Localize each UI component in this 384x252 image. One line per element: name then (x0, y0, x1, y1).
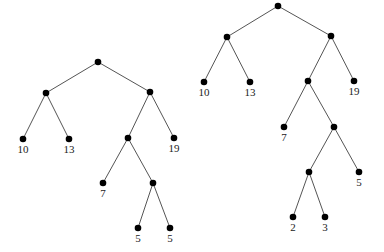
tree-left-edge (98, 62, 150, 92)
tree-right-node-label: 7 (281, 131, 287, 143)
tree-left-node (167, 225, 174, 232)
tree-right-edge (204, 37, 227, 82)
tree-right-node (305, 78, 312, 85)
tree-left-edge (46, 62, 98, 93)
tree-right-edge (227, 37, 250, 82)
tree-left-node (150, 180, 157, 187)
tree-right-node (328, 33, 335, 40)
tree-left-edge (128, 138, 153, 183)
tree-left-node (43, 90, 50, 97)
tree-left-node-label: 13 (64, 143, 76, 155)
tree-left-edge (138, 183, 153, 228)
tree-right-node (290, 214, 297, 221)
tree-left-node (20, 136, 27, 143)
tree-right-edge (278, 6, 331, 36)
tree-left-node-label: 5 (167, 232, 173, 244)
tree-right-edge (227, 6, 278, 37)
tree-left-node-label: 10 (18, 143, 30, 155)
tree-right-edge (308, 36, 331, 81)
tree-right-edge (293, 172, 309, 217)
tree-right-edge (334, 127, 359, 172)
tree-edges (23, 6, 359, 228)
tree-left-edge (103, 138, 128, 183)
tree-left-node (100, 180, 107, 187)
tree-left-node-label: 5 (135, 232, 141, 244)
tree-left-node (135, 225, 142, 232)
tree-right-node-label: 3 (322, 221, 328, 233)
tree-right-node-label: 10 (199, 86, 211, 98)
tree-right-node (247, 79, 254, 86)
tree-left-node (66, 136, 73, 143)
tree-left-node (171, 135, 178, 142)
tree-right-node (224, 34, 231, 41)
tree-left-edge (46, 93, 69, 139)
tree-right-node (322, 214, 329, 221)
tree-right-edge (284, 81, 308, 127)
tree-left-edge (128, 92, 150, 138)
tree-right-node (281, 124, 288, 131)
tree-labels: 1013197551013197523 (18, 85, 363, 244)
tree-right-node (306, 169, 313, 176)
tree-left-node (147, 89, 154, 96)
tree-right-node-label: 2 (290, 221, 296, 233)
tree-diagram: 1013197551013197523 (0, 0, 384, 252)
tree-right-node (275, 3, 282, 10)
tree-right-edge (331, 36, 354, 81)
tree-right-node-label: 5 (356, 176, 362, 188)
tree-left-edge (150, 92, 174, 138)
tree-left-edge (153, 183, 170, 228)
tree-right-edge (309, 127, 334, 172)
tree-right-node-label: 19 (349, 85, 361, 97)
tree-left-node-label: 7 (100, 187, 106, 199)
tree-left-node-label: 19 (169, 142, 181, 154)
tree-right-edge (309, 172, 325, 217)
tree-right-node (331, 124, 338, 131)
tree-nodes (20, 3, 363, 232)
tree-right-node (356, 169, 363, 176)
tree-left-node (125, 135, 132, 142)
tree-right-node-label: 13 (245, 86, 257, 98)
tree-left-node (95, 59, 102, 66)
tree-right-node (201, 79, 208, 86)
tree-right-node (351, 78, 358, 85)
tree-left-edge (23, 93, 46, 139)
tree-right-edge (308, 81, 334, 127)
